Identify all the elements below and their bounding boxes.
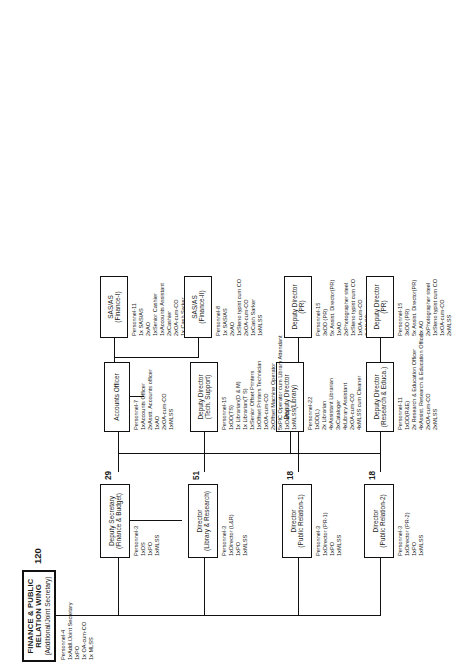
node-sas-finance-2-personnel: Personnel-8 1x SAS/AS 2xAO 1xSteno typis… (215, 279, 264, 336)
node-dir-pr1-title: Director (290, 510, 297, 533)
node-dir-lr-title: Director (196, 510, 203, 533)
node-sas-finance-2: SAS/AS (Finance-II) (184, 276, 212, 338)
node-root: FINANCE & PUBLIC RELATION WING (Addition… (22, 570, 56, 662)
connector-sas-bus (114, 357, 198, 358)
node-dd-tech-title: Deputy Director (197, 374, 204, 419)
node-dir-library-research: Director (Library & Research) (188, 484, 218, 558)
node-dir-pr2-personnel: Personnel-3 1xDirector (PR-2) 1xPO 1xMLS… (397, 512, 425, 556)
connector-dirlr-bus (204, 453, 380, 454)
node-dd-tech-personnel: Personnel-15 1xDD(TS) 1x Librarian(D & M… (221, 335, 299, 430)
node-root-subtitle: (Additional/Joint Secretary) (44, 576, 51, 655)
node-ds-finance-count: 29 (104, 471, 113, 480)
node-root-count: 120 (32, 548, 43, 564)
node-dd-pr-1-subtitle: (PR) (298, 300, 305, 313)
node-ds-finance: Deputy Secretary (Finance & Budget) (100, 484, 130, 558)
node-dd-tech-support: Deputy Director (Tech. Support) (190, 362, 218, 432)
node-dir-lr-count: 51 (192, 471, 201, 480)
node-dd-research-education: Deputy Director (Research & Educa.) (366, 362, 394, 432)
connector-root-spine-down (92, 615, 380, 616)
node-sas-finance-1: SAS/AS (Finance-I) (100, 276, 128, 338)
node-dir-lr-personnel: Personnel-3 1xDirector (L&R) 1xPO 1xMLSS (221, 514, 249, 556)
node-dir-pr2: Director (Public Relation-2) (364, 484, 394, 558)
connector-ds-down (130, 520, 182, 521)
connector-pr1-in (298, 338, 299, 362)
node-dd-research-personnel: Personnel-11 1xDD(R&E) 2x Research & Edu… (397, 332, 439, 430)
node-dd-pr-1-title: Deputy Director (291, 284, 298, 329)
node-dd-library-personnel: Personnel-22 1xDD(L) 2x Librarian 4xAssi… (307, 376, 363, 430)
node-dir-pr2-subtitle: (Public Relation-2) (379, 494, 386, 547)
connector-branch-dirlr (204, 558, 205, 616)
node-dd-pr-2-subtitle: (PR) (380, 300, 387, 313)
node-dir-pr1: Director (Public Relation-1) (282, 484, 312, 558)
node-dir-pr1-personnel: Personnel-3 1xDirector (PR-1) 1xPO 1xMLS… (315, 512, 343, 556)
node-dir-pr1-count: 18 (286, 471, 295, 480)
connector-dirlr-out (204, 454, 205, 472)
node-sas-finance-1-subtitle: (Finance-I) (114, 291, 121, 322)
node-ds-finance-subtitle: (Finance & Budget) (115, 493, 122, 549)
connector-sas2-in (198, 338, 199, 358)
node-ds-finance-personnel: Personnel-3 1xDS 1xPO 1xMLSS (133, 526, 161, 556)
connector-ddtech-in (204, 432, 205, 454)
connector-ao-out (114, 358, 115, 362)
connector-ao-to-sasbus (114, 338, 115, 358)
node-root-title: FINANCE & PUBLIC RELATION WING (27, 574, 44, 658)
connector-dirlr-bus-up (118, 453, 204, 454)
node-dir-pr2-count: 18 (368, 471, 377, 480)
node-dd-pr-2-personnel: Personnel-15 3xDD (PR) 5x Assist. Direct… (397, 279, 453, 336)
node-dir-pr2-title: Director (372, 510, 379, 533)
node-sas-finance-2-subtitle: (Finance-II) (198, 290, 205, 323)
connector-ao-vert (130, 396, 136, 397)
node-dd-pr-2-box: Deputy Director (PR) (366, 276, 394, 338)
connector-pr2-out (380, 432, 381, 472)
node-dd-pr-1-box: Deputy Director (PR) (284, 276, 312, 338)
node-sas-finance-2-title: SAS/AS (191, 295, 198, 318)
connector-branch-pr2 (380, 558, 381, 616)
node-accounts-officer-title: Accounts Officer (113, 373, 120, 421)
node-accounts-officer: Accounts Officer (104, 362, 130, 432)
connector-branch-pr1 (298, 558, 299, 616)
connector-branch-ds (118, 558, 119, 616)
connector-root-down (56, 615, 92, 616)
node-accounts-officer-personnel: Personnel-7 1xAccounts Officer 2xAsstt. … (133, 369, 175, 430)
node-root-personnel: Personnel-4 1xAddl./Joint Secretary 1xPO… (60, 602, 95, 660)
node-sas-finance-1-title: SAS/AS (107, 295, 114, 318)
node-dd-research-subtitle: (Research & Educa.) (380, 367, 387, 427)
connector-ddlibrary-in (290, 432, 291, 454)
node-dd-tech-subtitle: (Tech. Support) (204, 375, 211, 419)
node-dd-pr-1-personnel: Personnel-15 3xDD (PR) 5x Assist. Direct… (315, 279, 371, 336)
connector-pr1-out (298, 432, 299, 472)
node-dir-pr1-subtitle: (Public Relation-1) (297, 494, 304, 547)
node-ds-finance-title: Deputy Secretary (108, 496, 115, 546)
node-dd-pr-2-title: Deputy Director (373, 284, 380, 329)
node-dd-research-title: Deputy Director (373, 374, 380, 419)
node-dir-lr-subtitle: (Library & Research) (203, 491, 210, 551)
connector-pr2-in (380, 338, 381, 362)
